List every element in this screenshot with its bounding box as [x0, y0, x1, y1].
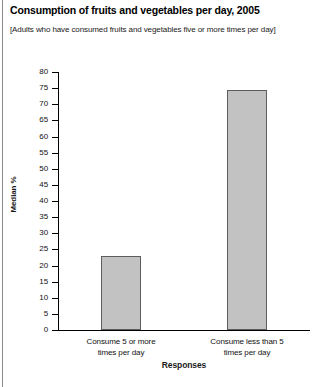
page-title: Consumption of fruits and vegetables per…: [10, 4, 310, 17]
y-axis-tick-label: 30: [0, 229, 48, 237]
bar: [101, 256, 141, 330]
x-axis-category-label: Consume 5 or moretimes per day: [58, 336, 184, 358]
y-axis-tick: [52, 282, 59, 283]
chart-subtitle: [Adults who have consumed fruits and veg…: [10, 24, 310, 35]
y-axis-tick-label: 50: [0, 165, 48, 173]
y-axis-tick-label: 75: [0, 84, 48, 92]
x-axis-line: [58, 330, 310, 331]
x-axis-category-label: Consume less than 5times per day: [184, 336, 310, 358]
chart-header: Consumption of fruits and vegetables per…: [10, 4, 310, 35]
y-axis-tick-label: 40: [0, 197, 48, 205]
y-axis-tick-label: 10: [0, 294, 48, 302]
y-axis-tick: [52, 88, 59, 89]
y-axis-tick: [52, 185, 59, 186]
y-axis-tick: [52, 233, 59, 234]
y-axis-tick: [52, 249, 59, 250]
y-axis-tick: [52, 72, 59, 73]
x-axis-category-label-line: times per day: [58, 347, 184, 358]
y-axis-tick: [52, 104, 59, 105]
y-axis-tick: [52, 169, 59, 170]
y-axis-tick: [52, 330, 59, 331]
y-axis-tick: [52, 201, 59, 202]
y-axis-tick-label: 20: [0, 262, 48, 270]
y-axis-tick: [52, 298, 59, 299]
x-axis-category-label-line: Consume 5 or more: [58, 336, 184, 347]
y-axis-tick-label: 25: [0, 245, 48, 253]
y-axis-tick: [52, 120, 59, 121]
y-axis-tick: [52, 153, 59, 154]
y-axis-tick: [52, 314, 59, 315]
y-axis-tick-label: 60: [0, 133, 48, 141]
y-axis-tick-label: 5: [0, 310, 48, 318]
y-axis-tick-label: 45: [0, 181, 48, 189]
x-axis-category-label-line: Consume less than 5: [184, 336, 310, 347]
y-axis-tick-label: 65: [0, 116, 48, 124]
y-axis-tick-label: 0: [0, 326, 48, 334]
y-axis-tick-label: 55: [0, 149, 48, 157]
y-axis-tick-label: 70: [0, 100, 48, 108]
x-axis-category-label-line: times per day: [184, 347, 310, 358]
y-axis-tick: [52, 266, 59, 267]
bar: [227, 90, 267, 330]
y-axis-tick-label: 15: [0, 278, 48, 286]
x-axis-title: Responses: [58, 360, 310, 370]
bar-chart: Median % 8075706560555045403530252015105…: [0, 60, 316, 387]
y-axis-tick: [52, 217, 59, 218]
y-axis-tick: [52, 137, 59, 138]
y-axis-tick-label: 35: [0, 213, 48, 221]
y-axis-tick-label: 80: [0, 68, 48, 76]
